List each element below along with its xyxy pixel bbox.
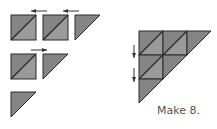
grid-square — [163, 31, 187, 55]
grid-triangle — [139, 79, 163, 103]
grid-square — [139, 55, 163, 79]
arrow-down-icon — [132, 45, 136, 58]
square-piece — [11, 15, 36, 40]
square-piece — [43, 15, 68, 40]
square-piece — [11, 54, 36, 79]
triangle-piece — [75, 15, 100, 40]
arrow-right-icon — [31, 48, 47, 52]
pieces-group — [11, 15, 100, 117]
assembled-triangle — [139, 31, 211, 103]
arrow-left-icon — [63, 9, 79, 13]
triangle-piece — [11, 92, 36, 117]
grid-triangle — [163, 55, 187, 79]
triangle-piece — [43, 54, 68, 79]
arrow-down-icon — [132, 68, 136, 82]
grid-triangle — [187, 31, 211, 55]
grid-square — [139, 31, 163, 55]
arrow-left-icon — [31, 9, 47, 13]
caption-text: Make 8. — [157, 104, 200, 117]
